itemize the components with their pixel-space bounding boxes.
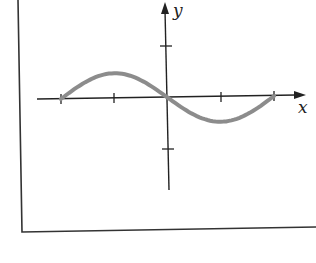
function-plot: y x [0, 0, 316, 263]
x-axis-label: x [298, 97, 308, 117]
y-axis-label: y [172, 0, 183, 20]
y-axis-arrow-icon [161, 2, 169, 14]
